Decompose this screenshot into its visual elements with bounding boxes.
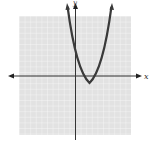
arrow-left-icon bbox=[8, 74, 14, 79]
curve-arrow-right-icon bbox=[110, 3, 115, 10]
y-axis-label: y bbox=[72, 0, 78, 7]
graph: x y bbox=[0, 0, 150, 141]
x-axis-label: x bbox=[144, 72, 149, 81]
arrow-right-icon bbox=[136, 74, 142, 79]
curve-arrow-left-icon bbox=[66, 3, 71, 10]
